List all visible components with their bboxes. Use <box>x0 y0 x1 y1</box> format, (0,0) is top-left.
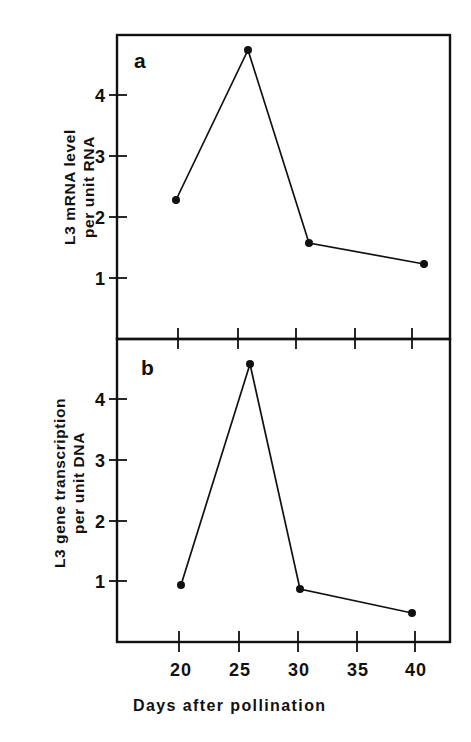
panel-b-ytick-4: 4 <box>95 390 105 410</box>
xtick-20: 20 <box>170 660 192 680</box>
panel-a-point-day41 <box>420 260 428 268</box>
panel-a-ytick-2: 2 <box>95 208 105 228</box>
panel-b-ytick-3: 3 <box>95 451 105 471</box>
figure: L3 mRNA level per unit RNA L3 gene trans… <box>0 0 471 742</box>
xtick-30: 30 <box>288 660 310 680</box>
panel-b-point-day40 <box>408 609 416 617</box>
panel-b-point-day26 <box>246 360 254 368</box>
xtick-40: 40 <box>405 660 427 680</box>
xtick-35: 35 <box>347 660 369 680</box>
panel-b-ytick-1: 1 <box>95 572 105 592</box>
panel-b-point-day20 <box>177 581 185 589</box>
panel-a-markers <box>172 46 428 268</box>
panel-a-line <box>176 50 424 264</box>
panel-a-ytick-1: 1 <box>95 269 105 289</box>
panel-a-ytick-4: 4 <box>95 86 105 106</box>
panel-b-markers <box>177 360 416 617</box>
panel-b-label: b <box>141 356 154 379</box>
xtick-25: 25 <box>229 660 251 680</box>
panel-b-point-day30 <box>296 585 304 593</box>
panel-b-ytick-2: 2 <box>95 512 105 532</box>
panel-b-frame <box>117 339 450 642</box>
panel-a-ytick-3: 3 <box>95 147 105 167</box>
panel-a-frame <box>117 35 450 339</box>
plot-canvas: 4 3 2 1 a <box>0 0 471 742</box>
panel-a-point-day20 <box>172 196 180 204</box>
x-axis-label: Days after pollination <box>133 697 327 715</box>
panel-a: 4 3 2 1 a <box>95 35 450 349</box>
panel-b: 4 3 2 1 20 25 30 35 40 b <box>95 339 450 680</box>
panel-a-point-day31 <box>305 239 313 247</box>
panel-b-line <box>181 364 412 613</box>
panel-a-point-day26 <box>244 46 252 54</box>
panel-a-label: a <box>134 49 146 72</box>
